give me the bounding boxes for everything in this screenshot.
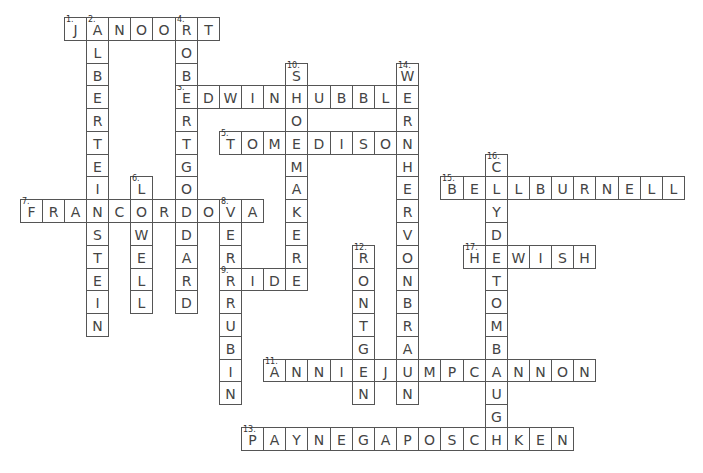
crossword-cell[interactable]: E bbox=[396, 85, 419, 109]
crossword-cell[interactable]: L bbox=[130, 268, 153, 291]
crossword-cell[interactable]: Y bbox=[485, 199, 508, 223]
crossword-cell[interactable]: I bbox=[86, 176, 109, 200]
crossword-cell[interactable]: E bbox=[396, 176, 419, 200]
crossword-cell[interactable]: O bbox=[241, 131, 264, 155]
crossword-cell[interactable]: R bbox=[175, 108, 198, 132]
crossword-cell[interactable]: 9.R bbox=[219, 268, 242, 291]
crossword-cell[interactable]: 14.W bbox=[396, 63, 419, 86]
crossword-cell[interactable]: 5.T bbox=[219, 131, 242, 155]
crossword-cell[interactable]: N bbox=[86, 313, 109, 337]
crossword-cell[interactable]: I bbox=[219, 359, 242, 382]
crossword-cell[interactable]: N bbox=[352, 290, 375, 314]
crossword-cell[interactable]: G bbox=[175, 154, 198, 177]
crossword-cell[interactable]: U bbox=[396, 359, 419, 382]
crossword-cell[interactable]: Y bbox=[285, 427, 308, 451]
crossword-cell[interactable]: A bbox=[285, 176, 308, 200]
crossword-cell[interactable]: R bbox=[42, 199, 65, 223]
crossword-cell[interactable]: D bbox=[175, 290, 198, 314]
crossword-cell[interactable]: T bbox=[485, 268, 508, 291]
crossword-cell[interactable]: E bbox=[285, 131, 308, 155]
crossword-cell[interactable]: O bbox=[130, 17, 153, 41]
crossword-cell[interactable]: 4.R bbox=[175, 17, 198, 41]
crossword-cell[interactable]: E bbox=[86, 85, 109, 109]
crossword-cell[interactable]: E bbox=[485, 245, 508, 269]
crossword-cell[interactable]: R bbox=[396, 199, 419, 223]
crossword-cell[interactable]: L bbox=[485, 176, 508, 200]
crossword-cell[interactable]: S bbox=[551, 245, 574, 269]
crossword-cell[interactable]: O bbox=[418, 427, 441, 451]
crossword-cell[interactable]: 12.R bbox=[352, 245, 375, 269]
crossword-cell[interactable]: H bbox=[396, 154, 419, 177]
crossword-cell[interactable]: B bbox=[330, 85, 353, 109]
crossword-cell[interactable]: L bbox=[374, 85, 397, 109]
crossword-cell[interactable]: R bbox=[285, 245, 308, 269]
crossword-cell[interactable]: N bbox=[86, 199, 109, 223]
crossword-cell[interactable]: N bbox=[396, 131, 419, 155]
crossword-cell[interactable]: N bbox=[396, 268, 419, 291]
crossword-cell[interactable]: D bbox=[175, 199, 198, 223]
crossword-cell[interactable]: G bbox=[352, 427, 375, 451]
crossword-cell[interactable]: P bbox=[396, 427, 419, 451]
crossword-cell[interactable]: E bbox=[285, 268, 308, 291]
crossword-cell[interactable]: O bbox=[551, 359, 574, 382]
crossword-cell[interactable]: B bbox=[352, 85, 375, 109]
crossword-cell[interactable]: 17.H bbox=[463, 245, 486, 269]
crossword-cell[interactable]: 13.P bbox=[241, 427, 264, 451]
crossword-cell[interactable]: I bbox=[241, 268, 264, 291]
crossword-cell[interactable]: B bbox=[529, 176, 552, 200]
crossword-cell[interactable]: H bbox=[485, 427, 508, 451]
crossword-cell[interactable]: B bbox=[485, 336, 508, 360]
crossword-cell[interactable]: N bbox=[595, 176, 619, 200]
crossword-cell[interactable]: O bbox=[285, 108, 308, 132]
crossword-cell[interactable]: 3.E bbox=[175, 85, 198, 109]
crossword-cell[interactable]: E bbox=[352, 359, 375, 382]
crossword-cell[interactable]: I bbox=[241, 85, 264, 109]
crossword-cell[interactable]: N bbox=[507, 359, 530, 382]
crossword-cell[interactable]: U bbox=[307, 85, 331, 109]
crossword-cell[interactable]: 7.F bbox=[20, 199, 43, 223]
crossword-cell[interactable]: W bbox=[219, 85, 242, 109]
crossword-cell[interactable]: K bbox=[285, 199, 308, 223]
crossword-cell[interactable]: D bbox=[307, 131, 331, 155]
crossword-cell[interactable]: L bbox=[662, 176, 685, 200]
crossword-cell[interactable]: D bbox=[197, 85, 220, 109]
crossword-cell[interactable]: H bbox=[573, 245, 596, 269]
crossword-cell[interactable]: S bbox=[86, 222, 109, 246]
crossword-cell[interactable]: E bbox=[529, 427, 552, 451]
crossword-cell[interactable]: 8.V bbox=[219, 199, 242, 223]
crossword-cell[interactable]: R bbox=[396, 108, 419, 132]
crossword-cell[interactable]: O bbox=[152, 17, 176, 41]
crossword-cell[interactable]: M bbox=[418, 359, 441, 382]
crossword-cell[interactable]: 1.J bbox=[64, 17, 87, 41]
crossword-cell[interactable]: U bbox=[485, 381, 508, 405]
crossword-cell[interactable]: N bbox=[396, 381, 419, 405]
crossword-cell[interactable]: R bbox=[219, 290, 242, 314]
crossword-cell[interactable]: 10.S bbox=[285, 63, 308, 86]
crossword-cell[interactable]: E bbox=[330, 427, 353, 451]
crossword-cell[interactable]: S bbox=[440, 427, 464, 451]
crossword-cell[interactable]: L bbox=[640, 176, 663, 200]
crossword-cell[interactable]: P bbox=[440, 359, 464, 382]
crossword-cell[interactable]: A bbox=[485, 359, 508, 382]
crossword-cell[interactable]: D bbox=[485, 222, 508, 246]
crossword-cell[interactable]: R bbox=[152, 199, 176, 223]
crossword-cell[interactable]: L bbox=[130, 290, 153, 314]
crossword-cell[interactable]: T bbox=[86, 131, 109, 155]
crossword-cell[interactable]: E bbox=[285, 222, 308, 246]
crossword-cell[interactable]: A bbox=[241, 199, 264, 223]
crossword-cell[interactable]: B bbox=[175, 63, 198, 86]
crossword-cell[interactable]: O bbox=[485, 290, 508, 314]
crossword-cell[interactable]: E bbox=[130, 245, 153, 269]
crossword-cell[interactable]: N bbox=[529, 359, 552, 382]
crossword-cell[interactable]: K bbox=[507, 427, 530, 451]
crossword-cell[interactable]: V bbox=[396, 222, 419, 246]
crossword-cell[interactable]: N bbox=[573, 359, 596, 382]
crossword-cell[interactable]: R bbox=[573, 176, 596, 200]
crossword-cell[interactable]: N bbox=[108, 17, 131, 41]
crossword-cell[interactable]: G bbox=[352, 336, 375, 360]
crossword-cell[interactable]: B bbox=[219, 336, 242, 360]
crossword-cell[interactable]: N bbox=[219, 381, 242, 405]
crossword-cell[interactable]: B bbox=[86, 63, 109, 86]
crossword-cell[interactable]: R bbox=[86, 108, 109, 132]
crossword-cell[interactable]: N bbox=[307, 427, 331, 451]
